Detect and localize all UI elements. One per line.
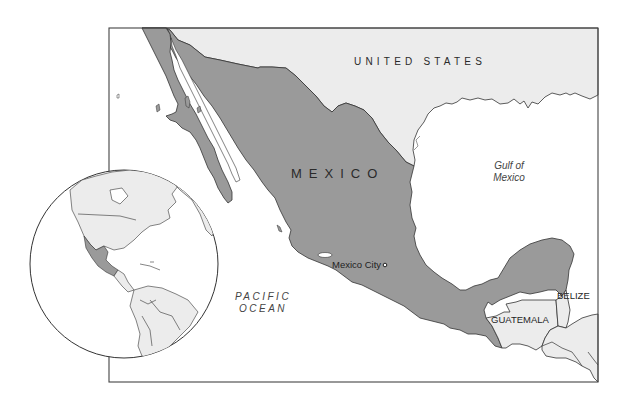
map-of-mexico: UNITED STATES MEXICO Gulf of Mexico PACI… bbox=[0, 0, 633, 409]
map-canvas bbox=[0, 0, 633, 409]
label-gulf-line1: Gulf of bbox=[484, 160, 534, 172]
label-mexico-city: Mexico City bbox=[332, 259, 381, 270]
label-belize: BELIZE bbox=[557, 290, 590, 301]
label-pacific-line1: PACIFIC bbox=[232, 291, 294, 303]
label-gulf-line2: Mexico bbox=[484, 172, 534, 184]
label-pacific-ocean: PACIFIC OCEAN bbox=[232, 291, 294, 315]
label-united-states: UNITED STATES bbox=[354, 56, 486, 67]
label-guatemala: GUATEMALA bbox=[491, 314, 549, 325]
lake-chapala bbox=[318, 253, 332, 258]
label-mexico: MEXICO bbox=[291, 166, 384, 181]
label-pacific-line2: OCEAN bbox=[232, 303, 294, 315]
mexico-city-marker bbox=[383, 263, 387, 267]
locator-globe bbox=[30, 170, 218, 358]
label-gulf-of-mexico: Gulf of Mexico bbox=[484, 160, 534, 184]
